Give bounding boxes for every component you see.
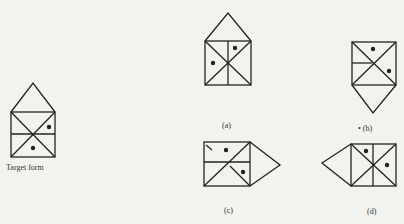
target-dot-1 (47, 125, 51, 129)
target-form-label: Target form (6, 163, 44, 172)
option-b-shape (352, 42, 396, 113)
option-c-dot-2 (241, 170, 245, 174)
option-d-dot-2 (385, 163, 389, 167)
option-a-dot-2 (211, 61, 215, 65)
option-b-label: • (b) (358, 124, 372, 133)
option-c-dot-1 (224, 148, 228, 152)
option-a-dot-1 (233, 46, 237, 50)
figure-canvas (0, 0, 404, 224)
option-c-label: (c) (224, 206, 233, 215)
option-a-shape (205, 13, 251, 85)
option-a-label: (a) (222, 121, 231, 130)
option-c-shape (204, 142, 280, 186)
target-dot-2 (31, 146, 35, 150)
option-b-dot-1 (371, 47, 375, 51)
option-d-dot-1 (364, 149, 368, 153)
option-d-label: (d) (367, 207, 376, 216)
option-b-dot-2 (387, 69, 391, 73)
